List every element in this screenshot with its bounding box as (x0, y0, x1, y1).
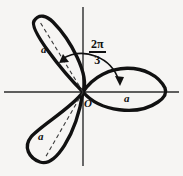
label-a-lower-left: a (38, 131, 44, 142)
label-a-upper-left: a (41, 44, 47, 55)
rose-curve-svg (0, 0, 183, 176)
axes-group (4, 7, 179, 166)
angle-numerator: 2π (89, 38, 106, 51)
label-a-right: a (124, 93, 130, 104)
rose-curve-figure: a a a O 2π 3 (0, 0, 183, 176)
petal-lower-left (27, 92, 83, 163)
label-angle-2pi-over-3: 2π 3 (89, 38, 106, 66)
angle-denominator: 3 (89, 53, 106, 66)
label-origin: O (84, 98, 92, 109)
angle-arrow-right (115, 76, 124, 86)
